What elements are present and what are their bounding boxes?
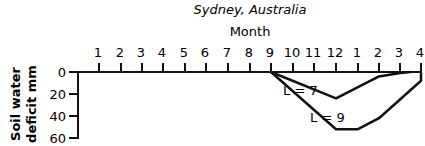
x-tick-labels: 1234567891011121234	[94, 45, 424, 60]
x-tick-label: 2	[374, 45, 382, 60]
x-tick-label: 9	[266, 45, 274, 60]
y-tick-label: 20	[49, 87, 66, 102]
y-axis-label-line2: deficit mm	[24, 65, 39, 143]
x-tick-label: 10	[284, 45, 301, 60]
x-tick-label: 7	[223, 45, 231, 60]
chart: Sydney, Australia Month 1234567891011121…	[0, 0, 425, 146]
x-tick-label: 4	[158, 45, 166, 60]
axes	[78, 63, 421, 139]
annotation-l9: L = 9	[310, 110, 345, 125]
series-lines	[271, 72, 421, 129]
x-axis-label: Month	[230, 24, 271, 39]
chart-title: Sydney, Australia	[194, 2, 307, 17]
y-tick-label: 60	[49, 131, 66, 146]
x-tick-label: 12	[327, 45, 344, 60]
y-axis-label: Soil water deficit mm	[8, 65, 39, 143]
x-tick-label: 11	[305, 45, 322, 60]
x-tick-label: 5	[180, 45, 188, 60]
y-tick-label: 0	[58, 65, 66, 80]
x-tick-label: 3	[137, 45, 145, 60]
x-tick-label: 8	[245, 45, 253, 60]
x-tick-label: 1	[353, 45, 361, 60]
x-tick-label: 3	[395, 45, 403, 60]
y-axis-label-line1: Soil water	[8, 66, 23, 141]
x-tick-label: 4	[416, 45, 424, 60]
x-tick-label: 6	[201, 45, 209, 60]
x-tick-label: 2	[116, 45, 124, 60]
y-ticks: 0204060	[49, 65, 78, 146]
y-tick-label: 40	[49, 109, 66, 124]
x-tick-label: 1	[94, 45, 102, 60]
annotation-l7: L = 7	[283, 83, 318, 98]
